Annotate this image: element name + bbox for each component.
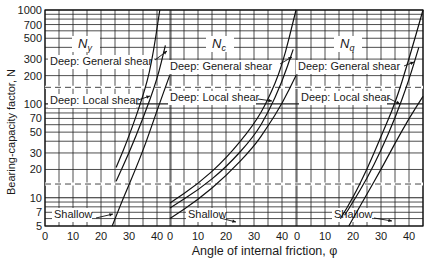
x-tick-label: 0 xyxy=(294,230,300,242)
x-tick-label: 20 xyxy=(220,230,232,242)
label-deep-general-shear: Deep: General shear xyxy=(298,60,400,72)
x-tick-label: 20 xyxy=(95,230,107,242)
y-tick-label: 200 xyxy=(24,70,42,82)
label-deep-local-shear: Deep: Local shear xyxy=(50,94,140,106)
x-tick-label: 30 xyxy=(375,230,387,242)
y-tick-label: 700 xyxy=(24,19,42,31)
x-tick-label: 30 xyxy=(123,230,135,242)
y-tick-label: 30 xyxy=(30,147,42,159)
x-tick-label: 30 xyxy=(248,230,260,242)
x-axis-label: Angle of internal friction, φ xyxy=(0,244,429,258)
label-shallow: Shallow xyxy=(54,208,93,220)
y-tick-label: 50 xyxy=(30,126,42,138)
y-tick-label: 500 xyxy=(24,32,42,44)
x-tick-label: 20 xyxy=(347,230,359,242)
y-axis-label: Bearing-capacity factor, N xyxy=(5,62,19,202)
x-tick-label: 40 xyxy=(276,230,288,242)
bearing-capacity-chart: 5710203050701002003005007001000NγDeep: G… xyxy=(0,0,429,266)
y-tick-label: 7 xyxy=(36,206,42,218)
y-tick-label: 70 xyxy=(30,112,42,124)
label-deep-local-shear: Deep: Local shear xyxy=(170,91,260,103)
x-tick-label: 10 xyxy=(319,230,331,242)
label-deep-local-shear: Deep: Local shear xyxy=(301,91,391,103)
y-tick-label: 10 xyxy=(30,192,42,204)
y-tick-label: 300 xyxy=(24,53,42,65)
x-tick-label: 10 xyxy=(67,230,79,242)
y-tick-label: 100 xyxy=(24,98,42,110)
label-deep-general-shear: Deep: General shear xyxy=(170,60,272,72)
x-tick-label: 40 xyxy=(151,230,163,242)
y-tick-label: 20 xyxy=(30,163,42,175)
y-tick-label: 1000 xyxy=(18,4,42,16)
x-tick-label: 40 xyxy=(403,230,415,242)
x-tick-label: 10 xyxy=(192,230,204,242)
label-deep-general-shear: Deep: General shear xyxy=(50,55,152,67)
x-tick-label: 0 xyxy=(42,230,48,242)
x-tick-label: 0 xyxy=(167,230,173,242)
